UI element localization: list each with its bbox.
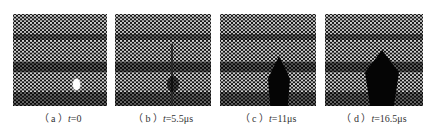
caption-value: =5.5μs <box>166 113 193 124</box>
caption-value: =16.5μs <box>374 113 406 124</box>
cavity <box>365 50 399 106</box>
dark-band <box>13 34 107 40</box>
dark-band <box>115 34 211 40</box>
caption-b: （ b ）t=5.5μs <box>115 110 211 125</box>
caption-label: （ a ） <box>39 113 68 124</box>
dark-band <box>115 92 211 106</box>
caption-c: （ c ）t=11μs <box>220 110 316 125</box>
dark-band <box>13 92 107 106</box>
dark-band <box>220 34 316 40</box>
bright-bubble <box>73 79 80 90</box>
dark-band <box>220 92 316 106</box>
caption-label: （ b ） <box>133 113 163 124</box>
caption-value: =0 <box>71 113 82 124</box>
caption-value: =11μs <box>272 113 297 124</box>
panel-d-image <box>325 14 423 106</box>
dark-band <box>13 62 107 72</box>
panel-b-image <box>115 14 211 106</box>
dark-band <box>220 62 316 72</box>
dark-band <box>325 34 423 40</box>
panel-c-image <box>220 14 316 106</box>
caption-a: （ a ）t=0 <box>13 110 107 125</box>
caption-d: （ d ）t=16.5μs <box>325 110 423 125</box>
panel-a-image <box>13 14 107 106</box>
cavity <box>167 76 179 92</box>
dark-band <box>115 62 211 72</box>
crack <box>171 44 173 106</box>
caption-label: （ c ） <box>240 113 269 124</box>
caption-label: （ d ） <box>341 113 371 124</box>
